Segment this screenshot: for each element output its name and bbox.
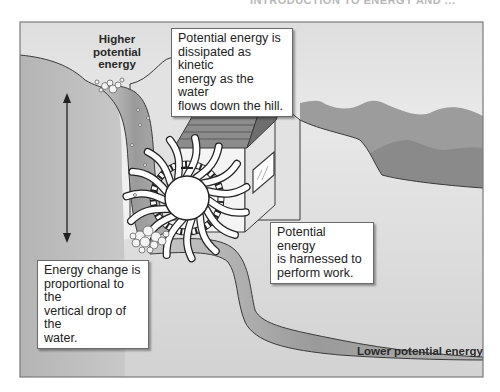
callout-line: flows down the hill. <box>178 100 286 114</box>
callout-line: dissipated as kinetic <box>178 46 286 73</box>
callout-line: proportional to the <box>44 278 142 305</box>
callout-energy-change: Energy change is proportional to the ver… <box>37 260 149 349</box>
callout-line: Energy change is <box>44 264 142 278</box>
higher-line-3: energy <box>82 58 152 71</box>
callout-line: is harnessed to <box>277 253 367 267</box>
callout-dissipated: Potential energy is dissipated as kineti… <box>171 28 293 117</box>
higher-line-1: Higher <box>82 33 152 46</box>
higher-line-2: potential <box>82 46 152 59</box>
higher-potential-label: Higher potential energy <box>82 33 152 71</box>
callout-line: vertical drop of the <box>44 305 142 332</box>
callout-harnessed: Potential energy is harnessed to perform… <box>270 222 374 284</box>
callout-line: water. <box>44 332 142 346</box>
callout-line: energy as the water <box>178 73 286 100</box>
callout-line: Potential energy <box>277 226 367 253</box>
callout-line: perform work. <box>277 267 367 281</box>
callout-line: Potential energy is <box>178 32 286 46</box>
lower-potential-label: Lower potential energy <box>357 345 483 358</box>
